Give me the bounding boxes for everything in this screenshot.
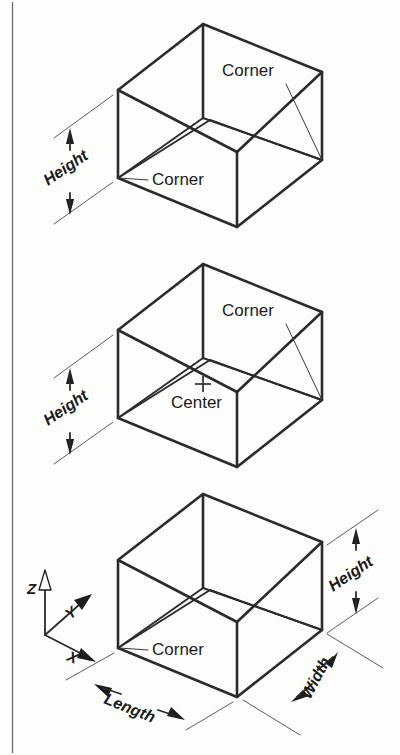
label-width: Width <box>298 654 334 701</box>
dimension-height-bottom: Height <box>325 510 378 633</box>
box-middle <box>118 264 322 467</box>
diagram-page: Corner Corner Height Corner <box>0 0 400 755</box>
label-height-top: Height <box>40 146 91 188</box>
label-center: Center <box>171 393 222 412</box>
label-corner-lower: Corner <box>152 170 204 189</box>
height-top-ext-lower <box>54 182 113 224</box>
dimension-width: Width <box>243 634 383 735</box>
width-ext-upper <box>327 634 383 668</box>
box-top-inner-fold <box>118 118 322 178</box>
label-corner-bottom: Corner <box>152 640 204 659</box>
box-top <box>118 24 322 227</box>
height-mid-ext-upper <box>54 335 113 378</box>
box-bottom-rim <box>118 494 322 622</box>
box-middle-rim <box>118 264 322 392</box>
box-top-inner-fold-2 <box>118 120 322 178</box>
height-bot-ext-upper <box>327 510 378 545</box>
box-bottom-inner-fold <box>118 588 322 648</box>
height-mid-ext-lower <box>54 422 113 464</box>
height-top-ext-upper <box>54 95 113 138</box>
box-bottom-inner-fold-2 <box>118 590 322 648</box>
label-corner-middle: Corner <box>222 301 274 320</box>
dimension-length: Length <box>66 653 233 730</box>
axis-triad: Z Y X <box>26 570 96 667</box>
dimension-height-top: Height <box>40 95 113 224</box>
length-ext-right <box>186 702 233 730</box>
label-length: Length <box>102 690 158 726</box>
label-height-middle: Height <box>40 386 91 428</box>
box-top-rim <box>118 24 322 152</box>
label-height-bottom: Height <box>325 552 376 594</box>
axis-z-label: Z <box>26 580 37 597</box>
height-bot-ext-lower <box>327 598 378 633</box>
box-bottom <box>118 494 322 697</box>
box-top-base <box>118 160 322 227</box>
dimension-height-middle: Height <box>40 335 113 464</box>
axis-z-arrowhead <box>39 570 51 590</box>
label-corner-upper: Corner <box>222 61 274 80</box>
width-ext-lower <box>243 700 300 735</box>
box-bottom-base <box>118 630 322 697</box>
